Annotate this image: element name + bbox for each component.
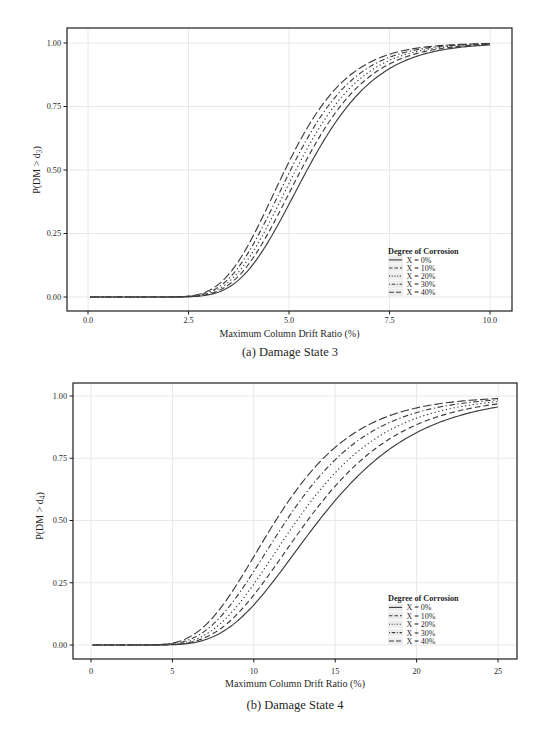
legend: Degree of CorrosionX = 0%X = 10%X = 20%X… [388, 594, 459, 646]
y-tick-label: 0.75 [47, 102, 61, 111]
chart-block-damage-state-3: 0.02.55.07.510.00.000.250.500.751.00Maxi… [0, 0, 542, 365]
gridlines [67, 28, 512, 311]
x-tick-label: 20 [413, 667, 421, 676]
x-tick-label: 10.0 [483, 316, 497, 325]
y-tick-label: 1.00 [47, 39, 61, 48]
figure-page: 0.02.55.07.510.00.000.250.500.751.00Maxi… [0, 0, 542, 731]
gridlines [73, 383, 517, 659]
series-curves [93, 399, 498, 645]
x-axis-title: Maximum Column Drift Ratio (%) [225, 678, 365, 690]
y-tick-label: 0.25 [47, 229, 61, 238]
x-tick-label: 15 [331, 667, 339, 676]
fragility-chart-damage-state-3: 0.02.55.07.510.00.000.250.500.751.00Maxi… [0, 0, 542, 365]
curve-X=30% [93, 400, 498, 645]
curve-X=40% [93, 399, 498, 645]
legend-label: X = 40% [407, 288, 436, 297]
curve-X=20% [93, 402, 498, 645]
x-tick-label: 0.0 [83, 316, 93, 325]
chart-caption-a: (a) Damage State 3 [68, 345, 512, 360]
x-tick-label: 0 [89, 667, 93, 676]
x-tick-label: 25 [494, 667, 502, 676]
legend-title: Degree of Corrosion [388, 247, 459, 256]
y-tick-label: 0.25 [53, 579, 67, 588]
y-tick-label: 0.75 [53, 454, 67, 463]
y-tick-label: 0.50 [47, 166, 61, 175]
x-tick-label: 10 [250, 667, 258, 676]
y-tick-label: 0.50 [53, 516, 67, 525]
y-tick-label: 1.00 [53, 392, 67, 401]
y-axis-title: P(DM > d4) [34, 492, 47, 540]
legend-title: Degree of Corrosion [388, 594, 459, 603]
curve-X=10% [93, 404, 498, 645]
y-axis-title: P(DM > d3) [31, 146, 44, 194]
chart-block-damage-state-4: 05101520250.000.250.500.751.00Maximum Co… [0, 365, 542, 731]
x-tick-label: 5 [170, 667, 174, 676]
y-tick-label: 0.00 [47, 293, 61, 302]
x-tick-label: 7.5 [384, 316, 394, 325]
x-tick-label: 2.5 [183, 316, 193, 325]
legend: Degree of CorrosionX = 0%X = 10%X = 20%X… [388, 247, 459, 297]
fragility-chart-damage-state-4: 05101520250.000.250.500.751.00Maximum Co… [0, 365, 542, 731]
legend-label: X = 40% [407, 637, 436, 646]
x-tick-label: 5.0 [284, 316, 294, 325]
curve-X=0% [93, 407, 498, 645]
chart-caption-b: (b) Damage State 4 [73, 698, 517, 713]
y-tick-label: 0.00 [53, 641, 67, 650]
x-axis-title: Maximum Column Drift Ratio (%) [220, 328, 360, 340]
